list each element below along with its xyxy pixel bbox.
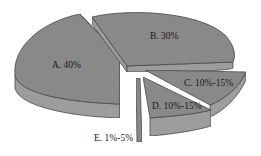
slice-e bbox=[136, 78, 142, 142]
pie-chart: A. 40% B. 30% C. 10%-15% D. 10%-15% E. 1… bbox=[0, 0, 261, 156]
label-c: C. 10%-15% bbox=[184, 78, 233, 88]
label-b: B. 30% bbox=[150, 31, 179, 41]
label-d: D. 10%-15% bbox=[152, 101, 202, 111]
label-a: A. 40% bbox=[52, 60, 81, 70]
label-e: E. 1%-5% bbox=[94, 133, 133, 143]
